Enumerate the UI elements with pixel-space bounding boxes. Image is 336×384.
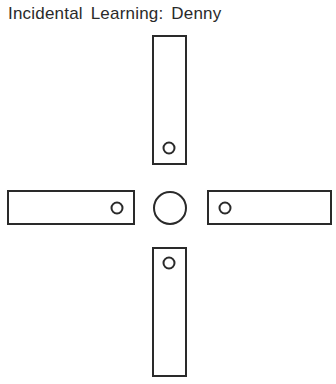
north-arm [153,36,186,164]
east-arm-goal-marker [220,203,231,214]
west-arm-outline [8,191,134,224]
west-arm-goal-marker [112,203,123,214]
east-arm-outline [208,191,331,224]
plus-maze-diagram [0,0,336,384]
south-arm [153,248,186,376]
east-arm [208,191,331,224]
center-platform [154,192,186,224]
south-arm-outline [153,248,186,376]
north-arm-goal-marker [164,143,175,154]
south-arm-goal-marker [164,258,175,269]
north-arm-outline [153,36,186,164]
west-arm [8,191,134,224]
